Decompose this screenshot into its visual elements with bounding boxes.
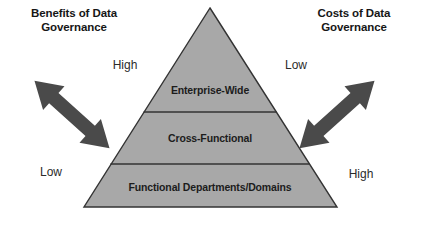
diagram-canvas: Benefits of Data Governance Costs of Dat…: [0, 0, 421, 233]
pyramid-tier-label-functional-departments: Functional Departments/Domains: [100, 181, 320, 193]
benefits-double-arrow-icon: [32, 62, 112, 167]
pyramid-tier-label-enterprise-wide: Enterprise-Wide: [130, 84, 290, 96]
pyramid-tier-label-cross-functional: Cross-Functional: [130, 132, 290, 144]
costs-double-arrow-icon: [297, 62, 377, 167]
